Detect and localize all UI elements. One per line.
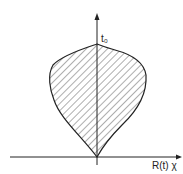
hatched-region: [50, 44, 146, 157]
x-axis-label: R(t) χ: [152, 161, 177, 171]
y-axis-label: t₀: [101, 34, 108, 44]
y-axis-arrow-icon: [95, 13, 100, 20]
x-axis-arrow-icon: [176, 155, 182, 160]
diagram-canvas: [0, 0, 183, 174]
